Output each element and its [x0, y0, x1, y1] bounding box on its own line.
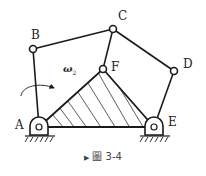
label-a: A [15, 119, 24, 131]
link-cd [113, 29, 174, 71]
caption-marker-icon: ▶ [84, 154, 89, 162]
hatched-link-afe [39, 62, 154, 135]
caption-text: 圖 3-4 [92, 151, 122, 162]
mechanism-diagram: B C F D A E ω2 ▶圖 3-4 [0, 0, 206, 176]
figure-caption: ▶圖 3-4 [0, 152, 206, 162]
label-e: E [168, 116, 177, 128]
label-f: F [111, 61, 119, 73]
rotation-arrow-icon [21, 85, 54, 96]
label-d: D [183, 58, 193, 70]
joint-b [30, 46, 37, 53]
omega-label: ω2 [63, 64, 76, 76]
joint-c [110, 26, 117, 33]
linkage-drawing [0, 0, 206, 176]
label-c: C [118, 10, 127, 22]
ground-support-e [140, 117, 170, 142]
label-b: B [31, 29, 40, 41]
joint-f [100, 66, 107, 73]
joint-d [171, 68, 178, 75]
ground-support-a [25, 117, 55, 142]
link-bc [33, 29, 113, 49]
link-ab [33, 49, 39, 127]
